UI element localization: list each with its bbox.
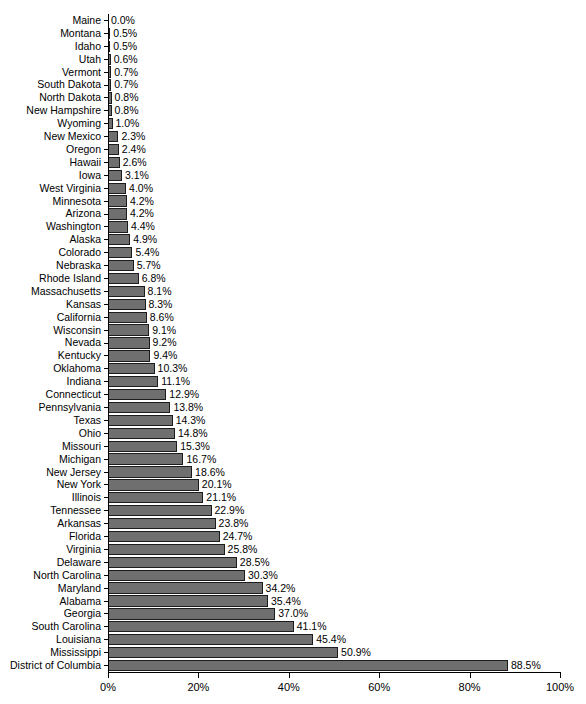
category-label: New Hampshire — [0, 105, 101, 116]
category-label: Illinois — [0, 492, 101, 503]
chart-bar — [108, 570, 245, 581]
chart-bar — [108, 621, 294, 632]
bar-value-label: 20.1% — [202, 479, 232, 490]
category-label: Georgia — [0, 608, 101, 619]
chart-bar — [108, 647, 338, 658]
chart-bar-row: Oklahoma10.3% — [0, 362, 586, 375]
chart-bar — [108, 337, 150, 348]
category-label: Connecticut — [0, 389, 101, 400]
chart-bar-row: Idaho0.5% — [0, 40, 586, 53]
bar-value-label: 5.7% — [137, 260, 161, 271]
category-label: Maryland — [0, 583, 101, 594]
chart-bar-row: Colorado5.4% — [0, 246, 586, 259]
bar-value-label: 0.8% — [115, 105, 139, 116]
category-label: Arkansas — [0, 518, 101, 529]
category-label: Alaska — [0, 234, 101, 245]
bar-value-label: 2.6% — [123, 157, 147, 168]
chart-bar — [108, 273, 139, 284]
chart-bar-row: Montana0.5% — [0, 27, 586, 40]
y-axis-line — [108, 14, 109, 673]
x-axis-tick-label: 60% — [368, 681, 390, 694]
category-label: South Carolina — [0, 621, 101, 632]
chart-bar — [108, 157, 120, 168]
category-label: North Carolina — [0, 570, 101, 581]
chart-bar — [108, 595, 268, 606]
bar-value-label: 34.2% — [266, 583, 296, 594]
category-label: Montana — [0, 28, 101, 39]
category-label: New York — [0, 479, 101, 490]
bar-value-label: 18.6% — [195, 467, 225, 478]
x-axis-tick — [108, 673, 109, 678]
chart-bar-row: Virginia25.8% — [0, 543, 586, 556]
chart-bar-row: New York20.1% — [0, 478, 586, 491]
chart-bar-row: Connecticut12.9% — [0, 388, 586, 401]
bar-value-label: 10.3% — [158, 363, 188, 374]
category-label: Kansas — [0, 299, 101, 310]
category-label: Colorado — [0, 247, 101, 258]
x-axis-tick — [379, 673, 380, 678]
chart-bar — [108, 144, 119, 155]
x-axis-tick-label: 100% — [546, 681, 574, 694]
bar-value-label: 0.6% — [114, 54, 138, 65]
chart-bar — [108, 363, 155, 374]
chart-bar-row: Iowa3.1% — [0, 169, 586, 182]
bar-value-label: 30.3% — [248, 570, 278, 581]
chart-bar — [108, 208, 127, 219]
bar-value-label: 14.8% — [178, 428, 208, 439]
chart-bar-row: Vermont0.7% — [0, 66, 586, 79]
bar-value-label: 14.3% — [176, 415, 206, 426]
category-label: Missouri — [0, 441, 101, 452]
chart-bar-row: Mississippi50.9% — [0, 646, 586, 659]
chart-bar-row: Maine0.0% — [0, 14, 586, 27]
chart-bar-row: Arkansas23.8% — [0, 517, 586, 530]
category-label: North Dakota — [0, 92, 101, 103]
chart-bar-row: Florida24.7% — [0, 530, 586, 543]
category-label: Delaware — [0, 557, 101, 568]
category-label: Louisiana — [0, 634, 101, 645]
chart-bar-row: Tennessee22.9% — [0, 504, 586, 517]
chart-bar — [108, 492, 203, 503]
bar-value-label: 2.4% — [122, 144, 146, 155]
chart-bar-row: North Dakota0.8% — [0, 91, 586, 104]
category-label: South Dakota — [0, 79, 101, 90]
chart-bar-row: South Carolina41.1% — [0, 620, 586, 633]
category-label: Nevada — [0, 337, 101, 348]
chart-bar-row: New Mexico2.3% — [0, 130, 586, 143]
category-label: Oregon — [0, 144, 101, 155]
chart-bar — [108, 324, 149, 335]
bar-value-label: 1.0% — [116, 118, 140, 129]
category-label: Massachusetts — [0, 286, 101, 297]
bar-value-label: 8.6% — [150, 312, 174, 323]
x-axis-tick — [198, 673, 199, 678]
chart-bar — [108, 260, 134, 271]
chart-bar — [108, 505, 212, 516]
bar-value-label: 0.8% — [115, 92, 139, 103]
chart-bar-row: Michigan16.7% — [0, 453, 586, 466]
chart-bar-row: North Carolina30.3% — [0, 569, 586, 582]
category-label: Nebraska — [0, 260, 101, 271]
bar-value-label: 16.7% — [186, 454, 216, 465]
category-label: Tennessee — [0, 505, 101, 516]
chart-bar-row: Nevada9.2% — [0, 337, 586, 350]
plot-area: Maine0.0%Montana0.5%Idaho0.5%Utah0.6%Ver… — [0, 14, 586, 672]
category-label: Oklahoma — [0, 363, 101, 374]
category-label: Ohio — [0, 428, 101, 439]
category-label: Utah — [0, 54, 101, 65]
chart-bar-row: South Dakota0.7% — [0, 79, 586, 92]
chart-bar-row: Texas14.3% — [0, 414, 586, 427]
chart-bar-row: West Virginia4.0% — [0, 182, 586, 195]
chart-bar — [108, 518, 216, 529]
x-axis-tick-label: 80% — [459, 681, 481, 694]
chart-bar — [108, 453, 183, 464]
chart-bar-row: Wisconsin9.1% — [0, 324, 586, 337]
chart-bar-row: Minnesota4.2% — [0, 195, 586, 208]
category-label: Washington — [0, 221, 101, 232]
bar-value-label: 9.2% — [153, 337, 177, 348]
bar-value-label: 50.9% — [341, 647, 371, 658]
chart-bar-row: Illinois21.1% — [0, 491, 586, 504]
category-label: Idaho — [0, 41, 101, 52]
bar-value-label: 24.7% — [223, 531, 253, 542]
category-label: Hawaii — [0, 157, 101, 168]
category-label: Alabama — [0, 596, 101, 607]
category-label: Iowa — [0, 170, 101, 181]
